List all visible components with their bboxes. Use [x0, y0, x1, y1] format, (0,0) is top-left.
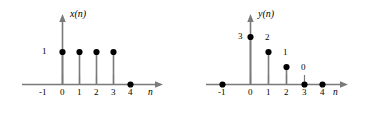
right-stems	[251, 38, 287, 85]
right-tick-label-2: 2	[284, 88, 289, 97]
stem-plot-figure: x(n) 1 -1 0 1 2 3 4 n	[0, 0, 375, 115]
chart-y-of-n: y(n) 3 2 1 0 -1 0 1 2 3 4 n	[0, 0, 375, 115]
right-tick-label-3: 3	[302, 88, 307, 97]
right-point-n2	[283, 64, 289, 70]
right-ticks	[251, 75, 305, 85]
right-function-label: y(n)	[258, 9, 274, 19]
right-point-n0	[247, 34, 253, 40]
right-value-label-3: 3	[238, 32, 243, 41]
right-x-axis-label: n	[333, 88, 338, 98]
right-value-label-1: 1	[283, 48, 288, 57]
right-y-axis-arrow-icon	[247, 14, 253, 22]
right-tick-label--1: -1	[218, 88, 226, 97]
right-tick-label-1: 1	[266, 88, 271, 97]
right-axes	[206, 14, 348, 88]
right-x-axis-arrow-icon	[340, 81, 348, 87]
right-value-label-0: 0	[301, 63, 306, 72]
right-point-n1	[265, 49, 271, 55]
right-value-label-2: 2	[265, 33, 270, 42]
right-tick-label-0: 0	[248, 88, 253, 97]
right-data-points	[219, 34, 325, 88]
right-tick-label-4: 4	[320, 88, 325, 97]
